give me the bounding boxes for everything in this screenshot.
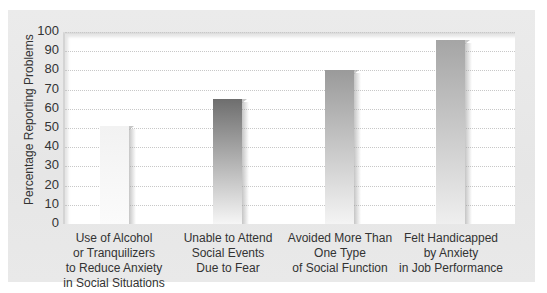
y-tick-label: 90 bbox=[29, 43, 59, 57]
bar-face bbox=[436, 40, 465, 224]
bar-shadow bbox=[465, 43, 472, 224]
y-tick-label: 10 bbox=[29, 197, 59, 211]
bar bbox=[213, 99, 242, 224]
gridline bbox=[65, 32, 515, 33]
bar-face bbox=[325, 70, 354, 224]
bar-shadow-cap bbox=[465, 40, 470, 44]
plot-area bbox=[63, 32, 515, 224]
x-category-label: Use of Alcohol or Tranquilizers to Reduc… bbox=[49, 231, 179, 291]
y-tick-label: 70 bbox=[29, 82, 59, 96]
y-tick-label: 30 bbox=[29, 158, 59, 172]
bar-face bbox=[213, 99, 242, 224]
bar-shadow-cap bbox=[129, 126, 134, 130]
bar-shadow-cap bbox=[354, 70, 359, 74]
y-tick-label: 0 bbox=[29, 216, 59, 230]
bar-face bbox=[100, 126, 129, 224]
y-tick-label: 60 bbox=[29, 101, 59, 115]
bar bbox=[100, 126, 129, 224]
bar bbox=[325, 70, 354, 224]
x-category-label: Felt Handicapped by Anxiety in Job Perfo… bbox=[386, 231, 516, 276]
y-tick-label: 20 bbox=[29, 178, 59, 192]
x-category-label: Unable to Attend Social Events Due to Fe… bbox=[163, 231, 293, 276]
bar-shadow-cap bbox=[242, 99, 247, 103]
bar-shadow bbox=[354, 73, 361, 224]
y-tick-label: 50 bbox=[29, 120, 59, 134]
bar-shadow bbox=[242, 102, 249, 224]
y-tick-label: 80 bbox=[29, 62, 59, 76]
y-tick-label: 100 bbox=[29, 24, 59, 38]
bar bbox=[436, 40, 465, 224]
y-tick-label: 40 bbox=[29, 139, 59, 153]
bar-shadow bbox=[129, 129, 136, 224]
